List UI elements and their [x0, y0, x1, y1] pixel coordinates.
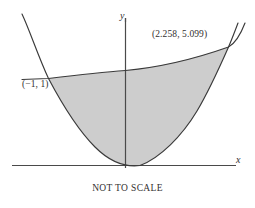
figure-container: (2.258, 5.099) (−1, 1) y x NOT TO SCALE: [0, 0, 255, 208]
figure-caption: NOT TO SCALE: [0, 183, 255, 193]
graph-canvas: [0, 0, 255, 208]
shaded-region: [49, 47, 229, 166]
